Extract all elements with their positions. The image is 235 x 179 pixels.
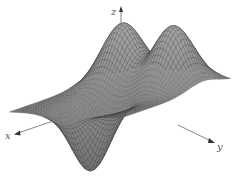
y-axis	[178, 125, 211, 141]
y-axis-arrow-icon	[208, 138, 215, 143]
surface-plot: z x y	[0, 0, 235, 179]
x-axis-label: x	[5, 130, 11, 141]
y-axis-label: y	[216, 141, 223, 152]
x-axis-arrow-icon	[14, 131, 21, 136]
z-axis-label: z	[110, 6, 117, 17]
x-axis	[18, 118, 62, 133]
z-axis-arrow-icon	[119, 6, 123, 12]
surface-mesh	[9, 23, 231, 171]
